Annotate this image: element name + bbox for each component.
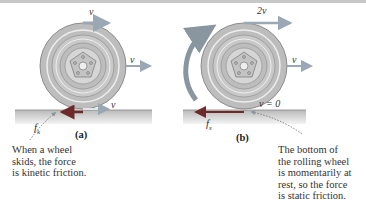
panel-label-a: (a) [75, 129, 87, 140]
panel-label-b: (b) [236, 132, 249, 143]
velocity-center-label-a: v [130, 54, 134, 65]
panel-b [183, 23, 311, 134]
velocity-center-label-b: v [292, 54, 296, 65]
friction-label-b: fs [206, 117, 212, 132]
caption-b: The bottom of the rolling wheel is momen… [278, 144, 352, 202]
velocity-top-label-a: v [89, 6, 93, 17]
wheel-b [201, 23, 287, 109]
caption-a: When a wheel skids, the force is kinetic… [12, 144, 86, 179]
velocity-top-label-b: 2v [257, 5, 266, 16]
velocity-bottom-label-b: v = 0 [259, 98, 280, 109]
friction-label-a: fk [34, 121, 40, 136]
velocity-bottom-label-a: v [111, 99, 115, 110]
wheel-a [40, 23, 126, 109]
